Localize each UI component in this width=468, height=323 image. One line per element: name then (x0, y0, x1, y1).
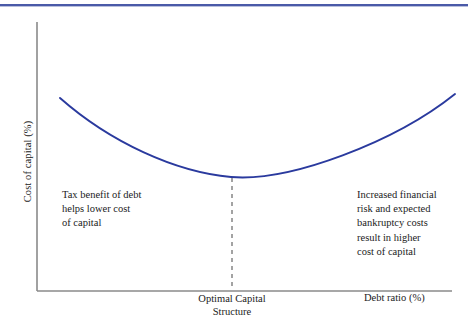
cost-of-capital-chart: Cost of capital (%) Debt ratio (%) Optim… (0, 0, 468, 323)
y-axis-title: Cost of capital (%) (22, 92, 33, 232)
annotation-right-line-4: result in higher (357, 231, 437, 245)
annotation-right-line-3: bankruptcy costs (357, 216, 437, 230)
annotation-financial-risk: Increased financial risk and expected ba… (357, 188, 437, 259)
x-axis-title: Debt ratio (%) (364, 292, 425, 303)
cost-of-capital-curve (60, 94, 455, 177)
annotation-right-line-5: cost of capital (357, 245, 437, 259)
annotation-left-line-2: helps lower cost (62, 202, 141, 216)
annotation-left-line-3: of capital (62, 216, 141, 230)
optimum-tick-label: Optimal Capital Structure (168, 292, 296, 318)
annotation-left-line-1: Tax benefit of debt (62, 188, 141, 202)
annotation-right-line-2: risk and expected (357, 202, 437, 216)
optimum-label-line-1: Optimal Capital (168, 292, 296, 305)
annotation-right-line-1: Increased financial (357, 188, 437, 202)
optimum-label-line-2: Structure (168, 305, 296, 318)
plot-area (0, 0, 468, 323)
annotation-tax-benefit: Tax benefit of debt helps lower cost of … (62, 188, 141, 231)
